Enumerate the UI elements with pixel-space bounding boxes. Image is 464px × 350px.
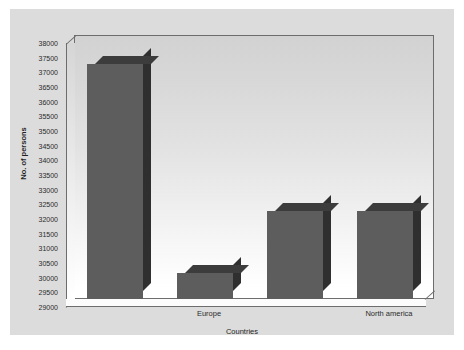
chart-figure: No. of persons 3800037500370003650036000… xyxy=(0,0,464,350)
x-axis-tick-label: Europe xyxy=(197,309,221,318)
bar-side-face xyxy=(143,48,151,291)
bar-front-face xyxy=(357,211,413,299)
y-axis-tick-label: 38000 xyxy=(39,40,58,47)
x-axis-tick-label: North america xyxy=(365,309,412,318)
y-axis-tick-label: 33500 xyxy=(39,172,58,179)
bar-front-face xyxy=(267,211,323,299)
bar xyxy=(357,211,413,299)
y-axis-tick-label: 34500 xyxy=(39,142,58,149)
y-axis-tick-label: 35500 xyxy=(39,113,58,120)
x-axis-title: Countries xyxy=(10,327,464,336)
bar xyxy=(267,211,323,299)
y-axis-tick-label: 29500 xyxy=(39,289,58,296)
y-axis-tick-labels: 3800037500370003650036000355003500034500… xyxy=(10,35,64,307)
plot-floor xyxy=(66,299,426,307)
plot-left-wall xyxy=(66,43,75,307)
y-axis-tick-label: 32500 xyxy=(39,201,58,208)
y-axis-tick-label: 30500 xyxy=(39,260,58,267)
y-axis-tick-label: 34000 xyxy=(39,157,58,164)
x-axis-tick-labels: EuropeNorth america xyxy=(66,309,434,323)
bar-front-face xyxy=(177,273,233,299)
y-axis-tick-label: 32000 xyxy=(39,216,58,223)
y-axis-tick-label: 31500 xyxy=(39,230,58,237)
bar-top-face xyxy=(365,203,429,211)
y-axis-tick-label: 37500 xyxy=(39,54,58,61)
y-axis-tick-label: 30000 xyxy=(39,274,58,281)
bar-top-face xyxy=(275,203,339,211)
bar-front-face xyxy=(87,64,143,299)
bar xyxy=(177,273,233,299)
bar xyxy=(87,64,143,299)
chart-canvas: No. of persons 3800037500370003650036000… xyxy=(10,9,454,335)
y-axis-tick-label: 36000 xyxy=(39,98,58,105)
y-axis-tick-label: 31000 xyxy=(39,245,58,252)
bar-top-face xyxy=(95,56,159,64)
y-axis-tick-label: 33000 xyxy=(39,186,58,193)
y-axis-tick-label: 35000 xyxy=(39,128,58,135)
plot-area xyxy=(66,35,434,307)
bar-top-face xyxy=(185,265,249,273)
y-axis-tick-label: 36500 xyxy=(39,84,58,91)
y-axis-tick-label: 37000 xyxy=(39,69,58,76)
y-axis-tick-label: 29000 xyxy=(39,304,58,311)
